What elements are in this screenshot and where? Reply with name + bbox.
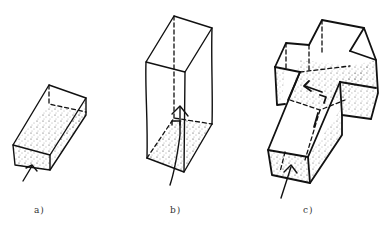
panel-b-label: b) xyxy=(170,205,181,215)
sketch-diagram xyxy=(0,0,390,235)
panel-a-box xyxy=(13,85,86,170)
panel-a-label: a) xyxy=(34,205,45,215)
panel-c-label: c) xyxy=(303,205,314,215)
panel-c-cross-volume xyxy=(268,20,378,183)
panel-b-box xyxy=(146,16,212,172)
